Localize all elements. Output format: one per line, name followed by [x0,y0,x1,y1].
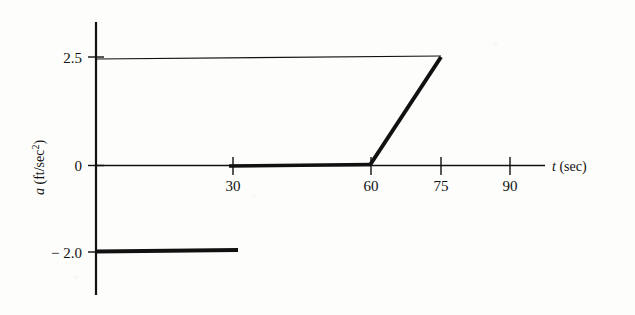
y-axis-title: a (ft/sec2) [30,140,48,195]
y-axis-title-close: ) [32,140,48,145]
axes-group [96,22,545,295]
chart-svg: 30 60 75 90 2.5 0 − 2.0 t (sec) a (ft/se… [0,0,635,315]
x-tick-label-60: 60 [364,178,379,194]
x-axis-title: t (sec) [552,159,587,175]
acceleration-time-chart: 30 60 75 90 2.5 0 − 2.0 t (sec) a (ft/se… [0,0,635,315]
y-tick-label-2-5: 2.5 [63,50,82,66]
y-axis-title-variable: a [32,188,47,195]
segment-zero-acceleration [229,165,371,167]
x-tick-label-30: 30 [226,178,241,194]
y-tick-labels: 2.5 0 − 2.0 [51,50,82,261]
x-tick-label-75: 75 [434,178,449,194]
segment-ramp-acceleration [370,57,441,165]
svg-text:a (ft/sec2): a (ft/sec2) [30,140,48,195]
svg-text:t (sec): t (sec) [552,159,587,175]
y-tick-label-0: 0 [75,158,83,174]
construction-line-2-5 [96,56,441,59]
x-tick-labels: 30 60 75 90 [226,178,518,194]
x-axis-title-unit: (sec) [559,159,587,175]
segment-negative-acceleration [97,250,238,252]
y-axis-title-unit: (ft/sec [32,150,48,185]
x-tick-label-90: 90 [503,178,518,194]
y-tick-label-negative-2-0: − 2.0 [51,245,82,261]
